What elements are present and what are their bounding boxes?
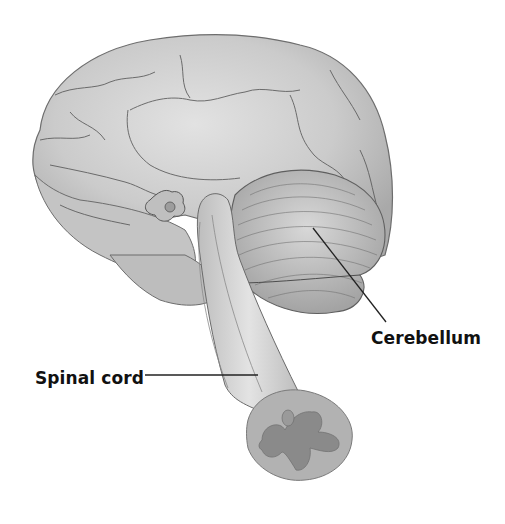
brain-diagram: Cerebellum Spinal cord [0,0,505,524]
brain-illustration [0,0,505,524]
spinal-cord-label: Spinal cord [35,368,144,388]
cerebellum-label: Cerebellum [371,328,481,348]
spinal-cord-cross-section [247,390,353,481]
